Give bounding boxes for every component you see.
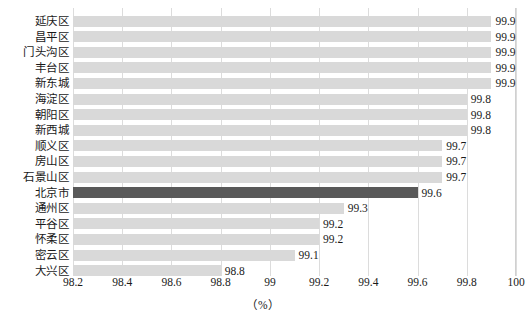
bar-value-label: 99.9 [491,13,515,29]
bar [73,94,467,105]
bar-highlighted [73,187,418,198]
bar [73,125,467,136]
bar-row: 99.8 [73,122,515,138]
bar [73,140,442,151]
bar-row: 99.7 [73,138,515,154]
bar-value-label: 99.7 [442,153,466,169]
category-label: 延庆区 [35,13,70,29]
x-tick-label: 98.2 [63,276,83,288]
x-tick-label: 99.4 [358,276,378,288]
x-tick-label: 98.8 [211,276,231,288]
bar [73,78,491,89]
bar-value-label: 99.2 [319,231,343,247]
bar-value-label: 99.8 [467,91,491,107]
bar-row: 99.9 [73,60,515,76]
x-axis-tick-labels: 98.298.498.698.89999.299.499.699.8100 [73,276,516,296]
bar-row: 99.9 [73,44,515,60]
x-tick-label: 100 [507,276,524,288]
bar-chart: 99.999.999.999.999.999.899.899.899.799.7… [0,0,526,322]
bar-value-label: 99.9 [491,44,515,60]
bar-row: 99.2 [73,231,515,247]
category-label: 丰台区 [35,60,70,76]
bar [73,172,442,183]
bar [73,31,491,42]
category-label: 新东城 [35,75,70,91]
bar-row: 99.9 [73,29,515,45]
bar [73,250,295,261]
bar-value-label: 99.9 [491,29,515,45]
bar-value-label: 99.1 [295,247,319,263]
category-label: 平谷区 [35,216,70,232]
bar [73,47,491,58]
category-label: 昌平区 [35,29,70,45]
bar-value-label: 99.8 [467,107,491,123]
bar-row: 99.8 [73,107,515,123]
category-label: 顺义区 [35,138,70,154]
category-label: 密云区 [35,247,70,263]
category-label: 石景山区 [23,169,69,185]
bar-value-label: 99.7 [442,138,466,154]
bar-row: 99.1 [73,247,515,263]
bar-value-label: 99.2 [319,216,343,232]
plot-area: 99.999.999.999.999.999.899.899.899.799.7… [73,8,516,276]
bar-value-label: 99.6 [418,185,442,201]
x-tick-label: 99.6 [407,276,427,288]
bar-value-label: 99.7 [442,169,466,185]
bar-value-label: 99.9 [491,75,515,91]
bar [73,218,319,229]
x-axis-title: （%） [0,296,526,312]
category-axis-labels: 延庆区昌平区门头沟区丰台区新东城海淀区朝阳区新西城顺义区房山区石景山区北京市通州… [0,8,69,276]
bar-value-label: 99.3 [344,200,368,216]
x-tick-label: 99.8 [457,276,477,288]
category-label: 通州区 [35,200,70,216]
x-tick-label: 99.2 [309,276,329,288]
x-tick-label: 98.6 [161,276,181,288]
bar [73,234,319,245]
bar-row: 99.2 [73,216,515,232]
bar [73,203,344,214]
bar [73,156,442,167]
bar [73,265,221,276]
bar [73,16,491,27]
bar [73,62,491,73]
bar-value-label: 99.8 [467,122,491,138]
bar-row: 99.7 [73,153,515,169]
category-label: 门头沟区 [23,44,69,60]
x-tick-label: 98.4 [112,276,132,288]
bar-row: 99.9 [73,13,515,29]
category-label: 北京市 [35,185,70,201]
category-label: 房山区 [35,153,70,169]
bar-row: 99.6 [73,185,515,201]
bar-row: 99.3 [73,200,515,216]
bar-value-label: 99.9 [491,60,515,76]
category-label: 怀柔区 [35,231,70,247]
bar-row: 99.9 [73,75,515,91]
bar-row: 99.7 [73,169,515,185]
bar-row: 99.8 [73,91,515,107]
x-tick-label: 99 [264,276,276,288]
gridline [516,8,517,276]
category-label: 新西城 [35,122,70,138]
category-label: 海淀区 [35,91,70,107]
bar [73,109,467,120]
category-label: 朝阳区 [35,107,70,123]
